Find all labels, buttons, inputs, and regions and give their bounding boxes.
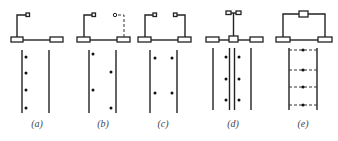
- sidewalk-left: [77, 37, 90, 42]
- panel-d: (d): [206, 11, 263, 130]
- lamp-pole-opposite-dashed: [118, 15, 124, 37]
- panel-label: (e): [297, 118, 309, 130]
- lamp-head-icon: [26, 13, 30, 17]
- lamp-position: [110, 107, 113, 110]
- median: [229, 36, 238, 42]
- sidewalk-left: [206, 37, 219, 42]
- lamp-position: [154, 57, 157, 60]
- lamp-position: [225, 99, 228, 102]
- cross-section-e: [276, 11, 332, 42]
- lamp-head-opposite-icon: [113, 13, 116, 16]
- lamp-position: [225, 56, 228, 59]
- lamp-position: [25, 89, 28, 92]
- cross-section-c: [138, 13, 191, 42]
- lamp-position: [171, 57, 174, 60]
- lamp-position: [238, 78, 241, 81]
- sidewalk-right: [318, 37, 332, 42]
- plan-view-c: [150, 50, 177, 113]
- lamp-head-icon: [174, 13, 178, 17]
- lamp-position: [238, 56, 241, 59]
- lamp-position: [25, 107, 28, 110]
- panel-label: (c): [157, 118, 169, 130]
- sidewalk-left: [276, 37, 290, 42]
- panel-label: (d): [227, 118, 239, 130]
- plan-view-a: [22, 50, 49, 113]
- lamp-position: [302, 104, 305, 107]
- plan-view-d: [213, 48, 251, 110]
- panel-c: (c): [138, 13, 191, 130]
- panel-a: (a): [11, 13, 63, 130]
- panel-label: (a): [31, 118, 43, 130]
- panel-e: (e): [276, 11, 332, 130]
- sidewalk-right: [50, 37, 63, 42]
- lamp-position: [25, 56, 28, 59]
- plan-view-b: [89, 50, 116, 113]
- lamp-head-icon: [153, 13, 157, 17]
- lamp-head-icon: [92, 13, 96, 17]
- cross-section-b: [77, 13, 130, 42]
- sidewalk-right: [250, 37, 263, 42]
- panel-b: (b): [77, 13, 130, 130]
- lamp-head-icon: [226, 11, 231, 15]
- lamp-position: [171, 92, 174, 95]
- lighting-layout-diagram: (a) (b): [0, 0, 338, 141]
- lamp-head-icon: [299, 11, 308, 17]
- lamp-position: [154, 92, 157, 95]
- sidewalk-left: [11, 37, 23, 42]
- cross-section-a: [11, 13, 63, 42]
- lamp-position: [225, 78, 228, 81]
- plan-view-e: [289, 48, 317, 110]
- lamp-pole: [84, 15, 92, 37]
- lamp-position: [302, 86, 305, 89]
- lamp-pole-left: [145, 15, 153, 37]
- cross-section-d: [206, 11, 263, 42]
- sidewalk-right: [178, 37, 191, 42]
- lamp-position: [92, 53, 95, 56]
- lamp-pole-right: [177, 15, 185, 37]
- panel-label: (b): [97, 118, 109, 130]
- lamp-pole: [17, 15, 26, 37]
- lamp-position: [92, 89, 95, 92]
- lamp-position: [302, 49, 305, 52]
- lamp-position: [302, 69, 305, 72]
- lamp-position: [110, 71, 113, 74]
- sidewalk-left: [138, 37, 151, 42]
- lamp-position: [238, 99, 241, 102]
- lamp-position: [25, 72, 28, 75]
- lamp-head-icon: [236, 11, 241, 15]
- sidewalk-right: [117, 37, 130, 42]
